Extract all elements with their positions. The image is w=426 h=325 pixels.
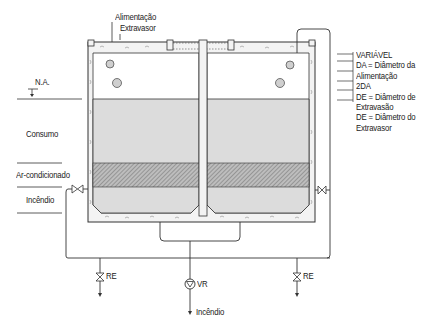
air-conditioning-zone-label: Ar-condicionado: [16, 170, 70, 180]
overflow-inlet-right: [276, 79, 285, 88]
feed-inlet-left: [106, 60, 114, 68]
water-level-label: N.A.: [35, 77, 50, 87]
legend-dimension-lines: [337, 52, 353, 102]
right-chamber: [207, 53, 309, 213]
divider-wall: [199, 40, 207, 216]
feed-label: Alimentação: [115, 12, 156, 22]
check-valve-label: VR: [197, 279, 208, 289]
left-gate-valve-icon[interactable]: [72, 185, 83, 193]
overflow-inlet-left: [113, 79, 122, 88]
drain-left-valve-icon[interactable]: [96, 273, 104, 281]
drain-left-label: RE: [106, 271, 117, 281]
overflow-label: Extravasor: [120, 23, 156, 33]
feed-inlet-right: [286, 61, 294, 69]
left-chamber: [93, 53, 199, 213]
consumption-zone-label: Consumo: [26, 129, 58, 139]
legend-item: Extravasor: [356, 123, 416, 133]
bottom-drain-pipes: [160, 222, 240, 312]
drain-right-label: RE: [303, 271, 314, 281]
check-valve-icon[interactable]: [185, 279, 195, 289]
right-gate-valve-icon[interactable]: [318, 186, 326, 194]
drain-right-valve-icon[interactable]: [293, 273, 301, 281]
fire-zone-label: Incêndio: [26, 195, 54, 205]
fire-outlet-label: Incêndio: [196, 307, 224, 317]
legend: VARIÁVEL DA = Diâmetro da Alimentação 2D…: [356, 50, 426, 133]
